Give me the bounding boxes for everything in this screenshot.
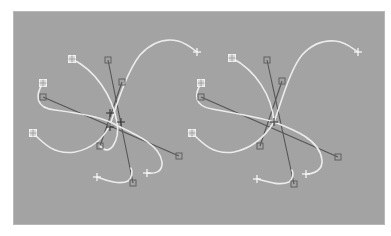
spline-curve[interactable] xyxy=(274,41,358,122)
knot-square[interactable] xyxy=(40,80,47,87)
knot-square[interactable] xyxy=(198,80,205,87)
spline-curve[interactable] xyxy=(38,83,162,173)
spline-curve[interactable] xyxy=(33,125,110,153)
spline-curve[interactable] xyxy=(192,122,274,153)
vertex-marker[interactable] xyxy=(270,118,278,126)
spline-curve[interactable] xyxy=(97,168,132,183)
knot-square[interactable] xyxy=(229,55,236,62)
spline-curve[interactable] xyxy=(110,40,197,125)
spline-curve[interactable] xyxy=(257,170,293,184)
knot-square[interactable] xyxy=(189,130,196,137)
knot-square[interactable] xyxy=(30,130,37,137)
right-spline-set xyxy=(189,41,363,187)
spline-curve[interactable] xyxy=(197,83,322,174)
spline-canvas[interactable] xyxy=(0,0,391,236)
knot-plus[interactable] xyxy=(253,175,261,183)
left-spline-set xyxy=(30,40,202,186)
knot-plus[interactable] xyxy=(143,169,151,177)
knot-plus[interactable] xyxy=(93,173,101,181)
knot-square[interactable] xyxy=(69,56,76,63)
knot-plus[interactable] xyxy=(302,170,310,178)
vertex-marker[interactable] xyxy=(117,118,125,126)
spline-curve[interactable] xyxy=(232,58,274,122)
